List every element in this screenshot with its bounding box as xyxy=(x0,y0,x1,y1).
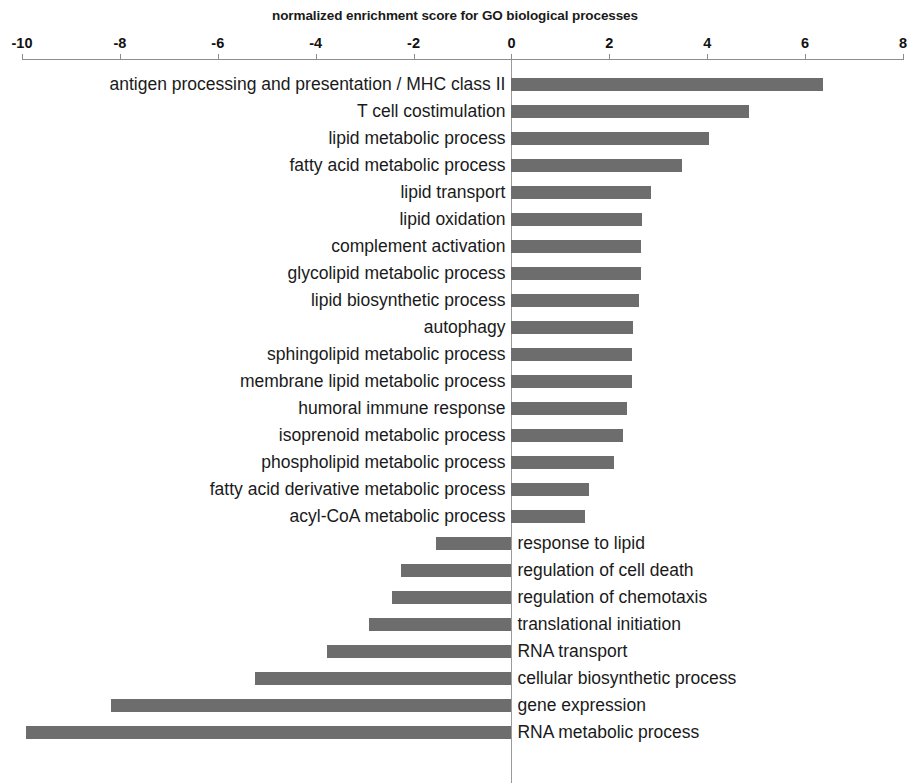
bar-row[interactable]: membrane lipid metabolic process xyxy=(0,368,910,395)
bar[interactable] xyxy=(511,429,623,442)
x-tick-label: 8 xyxy=(899,35,907,51)
bar-row[interactable]: lipid transport xyxy=(0,179,910,206)
bar-category-label: acyl-CoA metabolic process xyxy=(0,503,505,530)
x-tick-label: -2 xyxy=(407,35,420,51)
bar[interactable] xyxy=(511,321,632,334)
bar-category-label: regulation of chemotaxis xyxy=(517,584,910,611)
bar-category-label: fatty acid derivative metabolic process xyxy=(0,476,505,503)
bar[interactable] xyxy=(511,348,631,361)
bar-row[interactable]: RNA transport xyxy=(0,638,910,665)
bar[interactable] xyxy=(26,726,512,739)
x-tick-label: 0 xyxy=(507,35,515,51)
x-tick-label: 4 xyxy=(703,35,711,51)
bar-row[interactable]: cellular biosynthetic process xyxy=(0,665,910,692)
x-tick-label: -4 xyxy=(309,35,322,51)
bar[interactable] xyxy=(511,510,584,523)
bar-row[interactable]: sphingolipid metabolic process xyxy=(0,341,910,368)
bar-category-label: isoprenoid metabolic process xyxy=(0,422,505,449)
bar[interactable] xyxy=(511,159,681,172)
bar-row[interactable]: lipid biosynthetic process xyxy=(0,287,910,314)
bar-category-label: membrane lipid metabolic process xyxy=(0,368,505,395)
bar[interactable] xyxy=(511,78,822,91)
bar-category-label: RNA transport xyxy=(517,638,910,665)
bar-row[interactable]: regulation of chemotaxis xyxy=(0,584,910,611)
bar-category-label: translational initiation xyxy=(517,611,910,638)
bar-row[interactable]: humoral immune response xyxy=(0,395,910,422)
bar[interactable] xyxy=(511,186,650,199)
bar-category-label: lipid transport xyxy=(0,179,505,206)
bar-category-label: autophagy xyxy=(0,314,505,341)
bar[interactable] xyxy=(511,213,641,226)
bar[interactable] xyxy=(255,672,511,685)
bar-category-label: gene expression xyxy=(517,692,910,719)
bar-row[interactable]: isoprenoid metabolic process xyxy=(0,422,910,449)
bar-category-label: regulation of cell death xyxy=(517,557,910,584)
bar-category-label: cellular biosynthetic process xyxy=(517,665,910,692)
bar-category-label: glycolipid metabolic process xyxy=(0,260,505,287)
bar[interactable] xyxy=(511,456,613,469)
bar-category-label: antigen processing and presentation / MH… xyxy=(0,71,505,98)
enrichment-bar-chart: normalized enrichment score for GO biolo… xyxy=(0,0,910,783)
bar-row[interactable]: fatty acid derivative metabolic process xyxy=(0,476,910,503)
bar-category-label: lipid biosynthetic process xyxy=(0,287,505,314)
bar-row[interactable]: T cell costimulation xyxy=(0,98,910,125)
bar-row[interactable]: fatty acid metabolic process xyxy=(0,152,910,179)
bar[interactable] xyxy=(392,591,511,604)
bar-row[interactable]: translational initiation xyxy=(0,611,910,638)
x-tick-label: -8 xyxy=(113,35,126,51)
bar[interactable] xyxy=(511,402,627,415)
bar[interactable] xyxy=(111,699,512,712)
bar-row[interactable]: response to lipid xyxy=(0,530,910,557)
bar-category-label: T cell costimulation xyxy=(0,98,505,125)
bar-category-label: sphingolipid metabolic process xyxy=(0,341,505,368)
bar[interactable] xyxy=(511,240,640,253)
bar-row[interactable]: autophagy xyxy=(0,314,910,341)
bar-category-label: lipid metabolic process xyxy=(0,125,505,152)
bar[interactable] xyxy=(401,564,512,577)
bar[interactable] xyxy=(511,375,631,388)
x-tick-label: 6 xyxy=(801,35,809,51)
bar-row[interactable]: RNA metabolic process xyxy=(0,719,910,746)
bar-category-label: lipid oxidation xyxy=(0,206,505,233)
bar-row[interactable]: glycolipid metabolic process xyxy=(0,260,910,287)
x-tick-label: -6 xyxy=(211,35,224,51)
bar[interactable] xyxy=(511,267,640,280)
bar-category-label: RNA metabolic process xyxy=(517,719,910,746)
bar[interactable] xyxy=(511,132,709,145)
bar-row[interactable]: gene expression xyxy=(0,692,910,719)
chart-axis-title: normalized enrichment score for GO biolo… xyxy=(0,8,910,23)
bar-category-label: humoral immune response xyxy=(0,395,505,422)
bar-category-label: complement activation xyxy=(0,233,505,260)
bar-row[interactable]: lipid oxidation xyxy=(0,206,910,233)
bar-row[interactable]: phospholipid metabolic process xyxy=(0,449,910,476)
x-tick-label: -10 xyxy=(12,35,33,51)
bar[interactable] xyxy=(511,294,638,307)
bar-row[interactable]: acyl-CoA metabolic process xyxy=(0,503,910,530)
x-tick-label: 2 xyxy=(605,35,613,51)
bar-category-label: response to lipid xyxy=(517,530,910,557)
bar[interactable] xyxy=(511,105,749,118)
bar-row[interactable]: regulation of cell death xyxy=(0,557,910,584)
bar[interactable] xyxy=(436,537,512,550)
bar-row[interactable]: lipid metabolic process xyxy=(0,125,910,152)
bar-row[interactable]: complement activation xyxy=(0,233,910,260)
bar[interactable] xyxy=(327,645,511,658)
bar-row[interactable]: antigen processing and presentation / MH… xyxy=(0,71,910,98)
bar[interactable] xyxy=(369,618,511,631)
bar[interactable] xyxy=(511,483,589,496)
bar-category-label: phospholipid metabolic process xyxy=(0,449,505,476)
plot-area: antigen processing and presentation / MH… xyxy=(0,60,910,783)
bar-category-label: fatty acid metabolic process xyxy=(0,152,505,179)
